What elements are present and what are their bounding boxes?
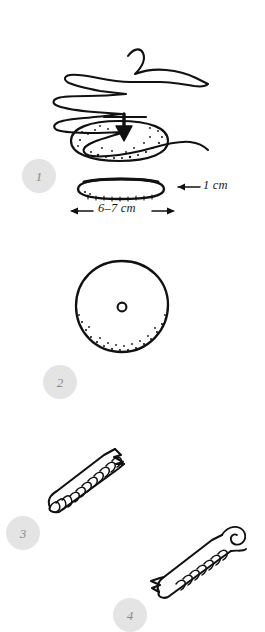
thickness-measurement-label: 1 cm [203, 178, 228, 193]
step-badge-2-label: 2 [57, 376, 64, 389]
step-badge-3: 3 [6, 516, 40, 550]
thickness-arrow-icon [178, 184, 200, 191]
step-badge-2: 2 [43, 365, 77, 399]
step-badge-4-label: 4 [127, 609, 134, 622]
step-badge-4-partial: 4 [113, 598, 147, 632]
rolled-dough-rope [49, 449, 124, 512]
step-badge-3-label: 3 [20, 527, 27, 540]
rolled-dough-rope-with-curled-end [151, 527, 246, 598]
step-badge-1: 1 [22, 159, 56, 193]
step-badge-1-label: 1 [36, 170, 43, 183]
disc-bottom-stipple [78, 314, 166, 351]
width-measurement-label: 6–7 cm [98, 201, 136, 216]
flattened-dough-side-view [78, 179, 164, 201]
round-dough-disc-with-center-hole [76, 261, 168, 352]
hand-pressing-dough-figure [54, 49, 209, 156]
